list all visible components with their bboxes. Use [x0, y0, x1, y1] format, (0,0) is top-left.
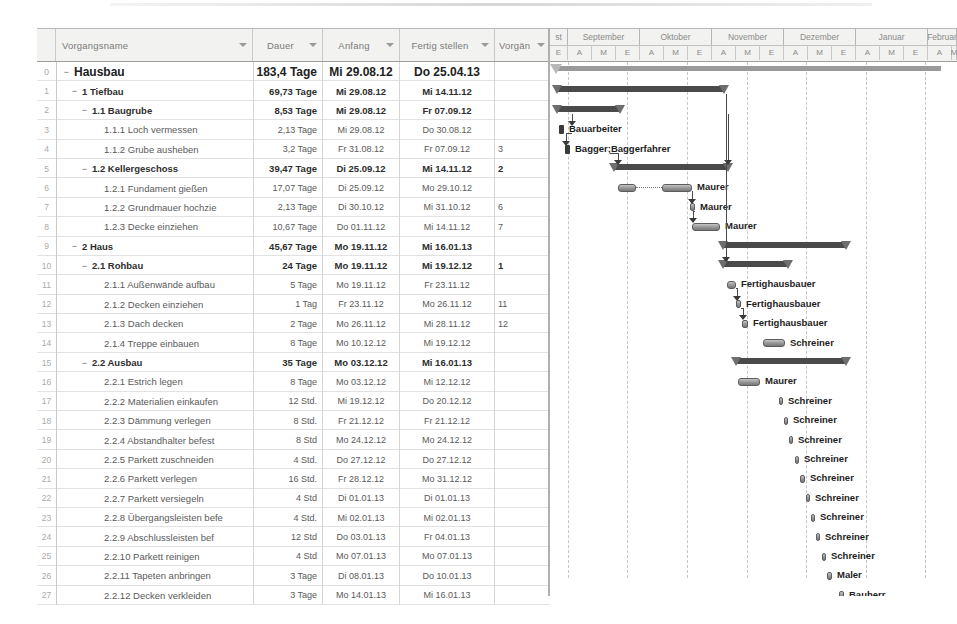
- cell-vorgaenger[interactable]: [495, 178, 550, 197]
- row-number[interactable]: 13: [37, 314, 57, 333]
- cell-dauer[interactable]: 3 Tage: [253, 566, 323, 585]
- cell-vorgangsname[interactable]: −2.1.2 Decken einziehen: [56, 295, 254, 314]
- cell-vorgangsname[interactable]: −2.2.7 Parkett versiegeln: [56, 489, 254, 508]
- cell-anfang[interactable]: Mo 19.11.12: [323, 237, 400, 256]
- cell-anfang[interactable]: Mo 24.12.12: [323, 430, 400, 449]
- cell-dauer[interactable]: 35 Tage: [253, 353, 323, 372]
- cell-vorgaenger[interactable]: [495, 353, 550, 372]
- cell-vorgaenger[interactable]: 3: [495, 140, 550, 159]
- cell-anfang[interactable]: Do 03.01.13: [323, 527, 400, 546]
- cell-dauer[interactable]: 45,67 Tage: [253, 237, 323, 256]
- table-row[interactable]: 26−2.2.11 Tapeten anbringen3 TageDi 08.0…: [37, 566, 550, 585]
- cell-dauer[interactable]: 183,4 Tage: [253, 62, 323, 81]
- gantt-task-bar[interactable]: [662, 184, 692, 192]
- table-row[interactable]: 6−1.2.1 Fundament gießen17,07 TageDi 25.…: [37, 178, 550, 197]
- cell-vorgaenger[interactable]: [495, 62, 550, 81]
- row-number[interactable]: 14: [37, 333, 57, 352]
- table-row[interactable]: 13−2.1.3 Dach decken2 TageMo 26.11.12Mi …: [37, 314, 550, 333]
- cell-vorgaenger[interactable]: 11: [495, 295, 550, 314]
- expand-collapse-icon[interactable]: −: [80, 164, 89, 174]
- gantt-task-bar[interactable]: [839, 591, 844, 596]
- cell-anfang[interactable]: Di 08.01.13: [323, 566, 400, 585]
- table-row[interactable]: 4−1.1.2 Grube ausheben3,2 TageFr 31.08.1…: [37, 140, 550, 159]
- cell-anfang[interactable]: Fr 28.12.12: [323, 469, 400, 488]
- cell-vorgangsname[interactable]: −2.1 Rohbau: [56, 256, 254, 275]
- row-number[interactable]: 25: [37, 547, 57, 566]
- cell-vorgaenger[interactable]: [495, 237, 550, 256]
- cell-vorgaenger[interactable]: [495, 372, 550, 391]
- cell-anfang[interactable]: Fr 23.11.12: [323, 295, 400, 314]
- row-number[interactable]: 11: [37, 275, 57, 294]
- cell-vorgangsname[interactable]: −2.2.8 Übergangsleisten befe: [56, 508, 254, 527]
- table-row[interactable]: 19−2.2.4 Abstandhalter befest8 StdMo 24.…: [37, 430, 550, 449]
- cell-dauer[interactable]: 16 Std.: [253, 469, 323, 488]
- cell-anfang[interactable]: Mi 02.01.13: [323, 508, 400, 527]
- cell-fertigstellen[interactable]: Mi 16.01.13: [400, 237, 495, 256]
- cell-dauer[interactable]: 1 Tag: [253, 295, 323, 314]
- cell-anfang[interactable]: Mi 29.08.12: [323, 62, 400, 81]
- chevron-down-icon[interactable]: [239, 43, 247, 47]
- cell-fertigstellen[interactable]: Mi 16.01.13: [400, 353, 495, 372]
- gantt-task-bar[interactable]: [618, 184, 636, 192]
- cell-vorgaenger[interactable]: [495, 430, 550, 449]
- gantt-task-bar[interactable]: [789, 436, 793, 444]
- gantt-project-bar[interactable]: [556, 66, 941, 71]
- cell-vorgaenger[interactable]: [495, 586, 550, 605]
- cell-dauer[interactable]: 8 Std: [253, 430, 323, 449]
- cell-vorgangsname[interactable]: −2.1.3 Dach decken: [56, 314, 254, 333]
- table-row[interactable]: 17−2.2.2 Materialien einkaufen12 Std.Mi …: [37, 392, 550, 411]
- cell-fertigstellen[interactable]: Fr 04.01.13: [400, 527, 495, 546]
- cell-fertigstellen[interactable]: Mi 19.12.12: [400, 256, 495, 275]
- cell-fertigstellen[interactable]: Mi 31.10.12: [400, 198, 495, 217]
- table-row[interactable]: 20−2.2.5 Parkett zuschneiden4 Std.Do 27.…: [37, 450, 550, 469]
- cell-anfang[interactable]: Di 30.10.12: [323, 198, 400, 217]
- cell-anfang[interactable]: Mi 29.08.12: [323, 81, 400, 100]
- cell-vorgangsname[interactable]: −2.1.1 Außenwände aufbau: [56, 275, 254, 294]
- row-number[interactable]: 24: [37, 527, 57, 546]
- table-row[interactable]: 2−1.1 Baugrube8,53 TageMi 29.08.12Fr 07.…: [37, 101, 550, 120]
- column-header-anfang[interactable]: Anfang: [323, 29, 400, 61]
- cell-fertigstellen[interactable]: Mi 16.01.13: [400, 586, 495, 605]
- cell-dauer[interactable]: 4 Std: [253, 547, 323, 566]
- cell-vorgaenger[interactable]: [495, 120, 550, 139]
- row-number[interactable]: 1: [37, 81, 57, 100]
- cell-vorgangsname[interactable]: −2.2.2 Materialien einkaufen: [56, 392, 254, 411]
- chevron-down-icon[interactable]: [481, 43, 489, 47]
- cell-anfang[interactable]: Mi 29.08.12: [323, 120, 400, 139]
- cell-fertigstellen[interactable]: Mi 14.11.12: [400, 81, 495, 100]
- cell-vorgangsname[interactable]: −1.1 Baugrube: [56, 101, 254, 120]
- cell-dauer[interactable]: 4 Std.: [253, 508, 323, 527]
- gantt-task-bar[interactable]: [816, 533, 820, 541]
- row-number[interactable]: 2: [37, 101, 57, 120]
- cell-vorgaenger[interactable]: [495, 566, 550, 585]
- table-row[interactable]: 7−1.2.2 Grundmauer hochzie2,13 TageDi 30…: [37, 198, 550, 217]
- gantt-summary-bar[interactable]: [557, 86, 724, 92]
- table-row[interactable]: 27−2.2.12 Decken verkleiden3 TageMo 14.0…: [37, 586, 550, 605]
- cell-dauer[interactable]: 8,53 Tage: [253, 101, 323, 120]
- cell-fertigstellen[interactable]: Do 25.04.13: [400, 62, 495, 81]
- cell-vorgaenger[interactable]: [495, 275, 550, 294]
- chevron-down-icon[interactable]: [537, 43, 545, 47]
- expand-collapse-icon[interactable]: −: [62, 67, 71, 77]
- table-row[interactable]: 21−2.2.6 Parkett verlegen16 Std.Fr 28.12…: [37, 469, 550, 488]
- cell-anfang[interactable]: Mo 26.11.12: [323, 314, 400, 333]
- cell-fertigstellen[interactable]: Fr 07.09.12: [400, 140, 495, 159]
- cell-vorgangsname[interactable]: −1.2.2 Grundmauer hochzie: [56, 198, 254, 217]
- row-number[interactable]: 15: [37, 353, 57, 372]
- gantt-summary-bar[interactable]: [736, 358, 846, 364]
- table-row[interactable]: 18−2.2.3 Dämmung verlegen8 Std.Fr 21.12.…: [37, 411, 550, 430]
- chevron-down-icon[interactable]: [309, 43, 317, 47]
- cell-fertigstellen[interactable]: Mo 26.11.12: [400, 295, 495, 314]
- gantt-task-bar[interactable]: [692, 223, 720, 231]
- gantt-summary-bar[interactable]: [614, 164, 728, 170]
- cell-dauer[interactable]: 4 Std: [253, 489, 323, 508]
- cell-vorgangsname[interactable]: −1.2.3 Decke einziehen: [56, 217, 254, 236]
- cell-dauer[interactable]: 3 Tage: [253, 586, 323, 605]
- cell-vorgaenger[interactable]: 7: [495, 217, 550, 236]
- cell-vorgaenger[interactable]: 1: [495, 256, 550, 275]
- expand-collapse-icon[interactable]: −: [70, 86, 79, 96]
- cell-anfang[interactable]: Fr 21.12.12: [323, 411, 400, 430]
- cell-fertigstellen[interactable]: Do 20.12.12: [400, 392, 495, 411]
- row-number[interactable]: 8: [37, 217, 57, 236]
- cell-anfang[interactable]: Mo 07.01.13: [323, 547, 400, 566]
